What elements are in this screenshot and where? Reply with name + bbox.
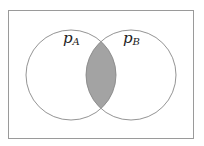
- venn-diagram: pA pB: [0, 0, 204, 146]
- set-a-label: pA: [63, 29, 80, 47]
- set-b-label: pB: [123, 29, 140, 47]
